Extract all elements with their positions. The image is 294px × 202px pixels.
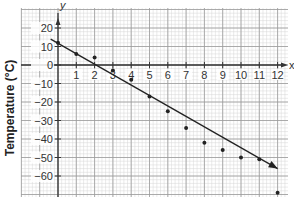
y-tick-label: −20 xyxy=(34,96,53,108)
y-tick-label: −40 xyxy=(34,133,53,145)
data-point xyxy=(184,126,188,130)
x-tick-label: 5 xyxy=(146,69,152,81)
y-tick-label: 10 xyxy=(41,41,53,53)
y-axis-title: Temperature (°C) xyxy=(2,48,18,168)
temperature-scatter-chart: Temperature (°C) xy12345678910111220100−… xyxy=(0,0,294,202)
data-point xyxy=(166,109,170,113)
x-tick-label: 9 xyxy=(220,69,226,81)
y-tick-label: −30 xyxy=(34,115,53,127)
x-tick-label: 1 xyxy=(73,69,79,81)
y-tick-label: −60 xyxy=(34,170,53,182)
data-point xyxy=(148,94,152,98)
data-point xyxy=(111,69,115,73)
y-tick-label: 0 xyxy=(47,59,53,71)
data-point xyxy=(129,78,133,82)
x-tick-label: 12 xyxy=(271,69,283,81)
y-axis-title-text: Temperature (°C) xyxy=(3,60,17,157)
data-point xyxy=(276,191,280,195)
minor-grid xyxy=(21,8,288,197)
plot-area: xy12345678910111220100−10−20−30−40−50−60 xyxy=(0,0,294,202)
x-tick-label: 10 xyxy=(235,69,247,81)
data-point xyxy=(74,52,78,56)
y-axis-arrow-icon xyxy=(56,18,61,25)
data-point xyxy=(221,148,225,152)
data-point xyxy=(239,156,243,160)
data-point xyxy=(257,157,261,161)
y-tick-label: 20 xyxy=(41,22,53,34)
x-tick-label: 11 xyxy=(254,69,265,81)
x-tick-label: 7 xyxy=(183,69,189,81)
y-tick-label: −10 xyxy=(34,78,53,90)
x-axis-letter: x xyxy=(289,59,294,71)
x-tick-label: 8 xyxy=(201,69,207,81)
data-point xyxy=(202,141,206,145)
x-tick-label: 2 xyxy=(92,69,98,81)
x-tick-label: 6 xyxy=(165,69,171,81)
y-tick-label: −50 xyxy=(34,152,53,164)
data-point xyxy=(56,41,60,45)
x-axis-arrow-icon xyxy=(281,63,288,68)
data-point xyxy=(93,56,97,60)
